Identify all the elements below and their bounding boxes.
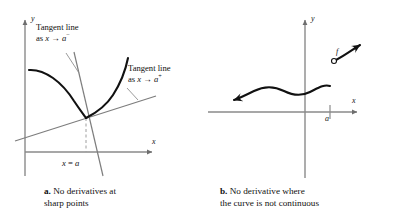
- leader-line-right-tangent: [127, 88, 138, 100]
- caption-a: a. No derivatives at sharp points: [44, 186, 116, 209]
- x-equals-a-label: x = a: [62, 158, 79, 169]
- x-axis-label-b: x: [352, 96, 356, 105]
- x-tick-a-label-b: a: [325, 114, 329, 123]
- tangent-left-line1: Tangent line: [36, 22, 79, 32]
- function-label-f: f: [336, 47, 338, 56]
- panel-a-sharp-point: y x Tangent line as x → a− Tangent line …: [0, 0, 200, 221]
- curve-upper-branch-b: [336, 45, 360, 60]
- curve-lower-branch-b: [234, 85, 330, 100]
- caption-a-line2: sharp points: [44, 198, 89, 208]
- tangent-right-line1: Tangent line: [128, 63, 171, 73]
- panel-b-discontinuity: y x a f b. No derivative where the curve…: [200, 0, 397, 221]
- open-circle-endpoint-icon: [332, 59, 337, 64]
- tangent-line-right-label: Tangent line as x → a+: [128, 63, 171, 84]
- curve-right-branch-a: [86, 58, 128, 118]
- tangent-line-left-label: Tangent line as x → a−: [36, 22, 79, 43]
- caption-b-lead: b.: [220, 186, 227, 196]
- figure-container: y x Tangent line as x → a− Tangent line …: [0, 0, 397, 221]
- tangent-left-line2: as x → a−: [36, 33, 79, 44]
- caption-b-line1: No derivative where: [230, 186, 305, 196]
- caption-b: b. No derivative where the curve is not …: [220, 186, 319, 209]
- caption-b-line2: the curve is not continuous: [220, 198, 319, 208]
- y-axis-label-a: y: [31, 14, 35, 23]
- caption-a-lead: a.: [44, 186, 51, 196]
- tangent-right-line2: as x → a+: [128, 74, 171, 85]
- y-axis-label-b: y: [311, 14, 315, 23]
- caption-a-line1: No derivatives at: [53, 186, 116, 196]
- curve-left-branch-a: [29, 70, 86, 118]
- x-axis-label-a: x: [152, 137, 156, 146]
